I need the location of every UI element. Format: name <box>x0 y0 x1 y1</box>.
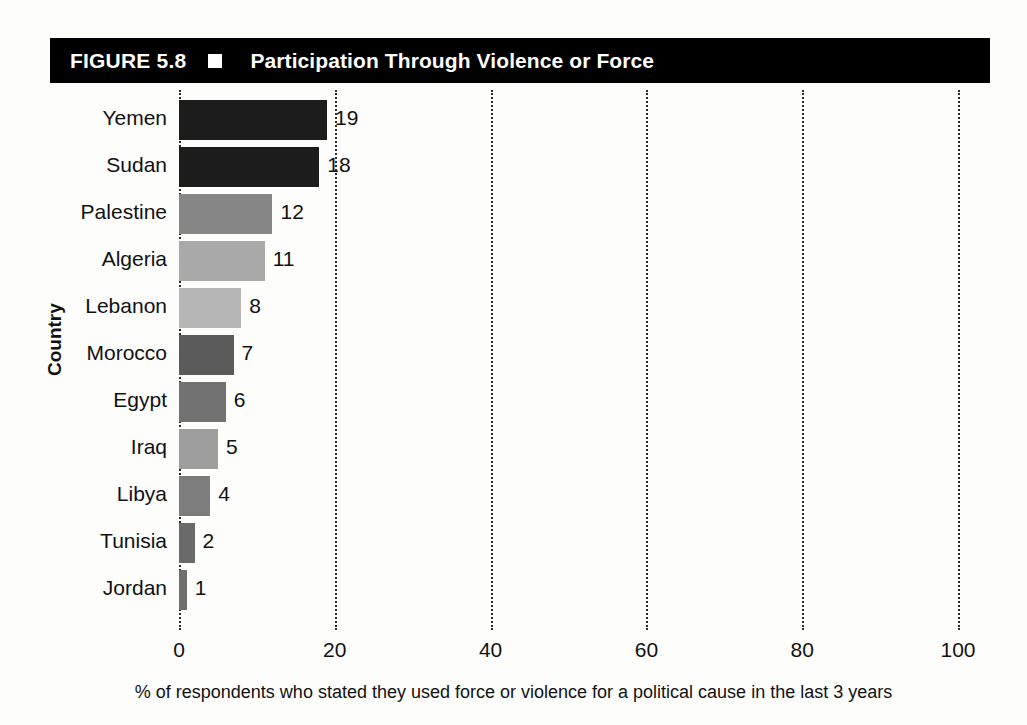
bar <box>179 288 241 328</box>
bar-category-label: Sudan <box>0 153 179 177</box>
bar-row: Jordan1 <box>0 566 1027 613</box>
bar <box>179 335 234 375</box>
x-tick-label: 20 <box>300 638 370 662</box>
bar <box>179 147 319 187</box>
x-tick-label: 0 <box>144 638 214 662</box>
bar <box>179 241 265 281</box>
x-tick-label: 60 <box>611 638 681 662</box>
bar-row: Morocco7 <box>0 331 1027 378</box>
x-tick-label: 40 <box>456 638 526 662</box>
bar-category-label: Algeria <box>0 247 179 271</box>
bar-row: Sudan18 <box>0 143 1027 190</box>
bar-value-label: 18 <box>327 153 350 177</box>
bar-category-label: Libya <box>0 482 179 506</box>
bar-row: Egypt6 <box>0 378 1027 425</box>
bar-category-label: Jordan <box>0 576 179 600</box>
chart-plot-area: Country Yemen19Sudan18Palestine12Algeria… <box>0 90 1027 725</box>
bar-value-label: 5 <box>226 435 238 459</box>
bar-category-label: Egypt <box>0 388 179 412</box>
bar <box>179 382 226 422</box>
figure-title-bar: FIGURE 5.8 Participation Through Violenc… <box>50 38 990 83</box>
bar-category-label: Yemen <box>0 106 179 130</box>
x-axis-tick-labels: 020406080100 <box>0 638 1027 672</box>
bar <box>179 429 218 469</box>
bar-row: Tunisia2 <box>0 519 1027 566</box>
bar-row: Iraq5 <box>0 425 1027 472</box>
x-tick-label: 80 <box>767 638 837 662</box>
bar-value-label: 8 <box>249 294 261 318</box>
bar-value-label: 6 <box>234 388 246 412</box>
bar-value-label: 11 <box>273 247 295 271</box>
bar-category-label: Iraq <box>0 435 179 459</box>
bar-category-label: Lebanon <box>0 294 179 318</box>
bar-row: Lebanon8 <box>0 284 1027 331</box>
figure-page: FIGURE 5.8 Participation Through Violenc… <box>0 0 1027 725</box>
bar <box>179 570 187 610</box>
x-tick-label: 100 <box>923 638 993 662</box>
bar-row: Palestine12 <box>0 190 1027 237</box>
bar-row: Algeria11 <box>0 237 1027 284</box>
bar <box>179 100 327 140</box>
chart-bars: Yemen19Sudan18Palestine12Algeria11Lebano… <box>0 96 1027 616</box>
bar-value-label: 7 <box>242 341 254 365</box>
figure-number: FIGURE 5.8 <box>70 49 186 73</box>
figure-title: Participation Through Violence or Force <box>250 49 654 73</box>
bar-category-label: Morocco <box>0 341 179 365</box>
bar-value-label: 19 <box>335 106 358 130</box>
bar <box>179 194 272 234</box>
bar-value-label: 4 <box>218 482 230 506</box>
bar-value-label: 12 <box>280 200 303 224</box>
bar <box>179 476 210 516</box>
white-square-icon <box>208 54 222 68</box>
bar-value-label: 1 <box>195 576 207 600</box>
bar-value-label: 2 <box>203 529 215 553</box>
bar-category-label: Palestine <box>0 200 179 224</box>
bar-row: Libya4 <box>0 472 1027 519</box>
bar-category-label: Tunisia <box>0 529 179 553</box>
x-axis-caption: % of respondents who stated they used fo… <box>0 682 1027 703</box>
bar <box>179 523 195 563</box>
bar-row: Yemen19 <box>0 96 1027 143</box>
